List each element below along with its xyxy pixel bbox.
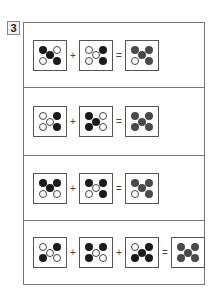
- plus-sign: +: [67, 50, 79, 61]
- black-dot: [99, 190, 107, 198]
- black-dot: [131, 254, 139, 262]
- black-dot: [53, 179, 61, 187]
- black-dot: [53, 112, 61, 120]
- white-dot: [131, 57, 139, 65]
- gray-dot: [191, 243, 199, 251]
- gray-dot: [177, 254, 185, 262]
- gray-dot: [145, 46, 153, 54]
- equation-row: +=: [24, 156, 204, 221]
- result-box: [171, 237, 205, 268]
- result-box: [125, 40, 159, 71]
- equals-sign: =: [113, 116, 125, 127]
- dot-box: [33, 106, 67, 137]
- white-dot: [39, 190, 47, 198]
- equation: +=: [33, 173, 159, 204]
- white-dot: [53, 254, 61, 262]
- white-dot: [53, 190, 61, 198]
- white-dot: [85, 57, 93, 65]
- gray-dot: [145, 123, 153, 131]
- white-dot: [131, 190, 139, 198]
- plus-sign: +: [67, 247, 79, 258]
- equation-row: +=: [24, 23, 204, 88]
- gray-dot: [191, 254, 199, 262]
- black-dot: [99, 46, 107, 54]
- dot-box: [33, 40, 67, 71]
- dot-box: [33, 237, 67, 268]
- gray-dot: [145, 112, 153, 120]
- black-dot: [99, 57, 107, 65]
- gray-dot: [145, 57, 153, 65]
- question-number: 3: [7, 21, 20, 35]
- equation: +=: [33, 40, 159, 71]
- black-dot: [53, 123, 61, 131]
- dot-box: [33, 173, 67, 204]
- black-dot: [99, 243, 107, 251]
- equals-sign: =: [113, 50, 125, 61]
- equation: ++=: [33, 237, 205, 268]
- gray-dot: [131, 123, 139, 131]
- plus-sign: +: [67, 183, 79, 194]
- dot-box: [79, 173, 113, 204]
- white-dot: [99, 123, 107, 131]
- puzzle-frame: +=+=+=++=: [23, 22, 205, 285]
- result-box: [125, 106, 159, 137]
- gray-dot: [145, 190, 153, 198]
- black-dot: [145, 243, 153, 251]
- result-box: [125, 173, 159, 204]
- dot-box: [79, 106, 113, 137]
- equals-sign: =: [159, 247, 171, 258]
- equation-row: ++=: [24, 221, 204, 284]
- plus-sign: +: [113, 247, 125, 258]
- black-dot: [53, 243, 61, 251]
- black-dot: [53, 57, 61, 65]
- black-dot: [85, 123, 93, 131]
- white-dot: [85, 190, 93, 198]
- equals-sign: =: [113, 183, 125, 194]
- black-dot: [99, 179, 107, 187]
- black-dot: [145, 254, 153, 262]
- white-dot: [99, 254, 107, 262]
- black-dot: [85, 254, 93, 262]
- equation-row: +=: [24, 88, 204, 156]
- dot-box: [79, 40, 113, 71]
- white-dot: [53, 46, 61, 54]
- white-dot: [39, 57, 47, 65]
- black-dot: [39, 254, 47, 262]
- equation: +=: [33, 106, 159, 137]
- plus-sign: +: [67, 116, 79, 127]
- dot-box: [79, 237, 113, 268]
- white-dot: [39, 123, 47, 131]
- dot-box: [125, 237, 159, 268]
- white-dot: [99, 112, 107, 120]
- gray-dot: [145, 179, 153, 187]
